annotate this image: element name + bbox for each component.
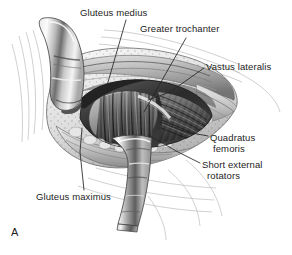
label-quadratus-femoris-line2: femoris	[213, 143, 245, 155]
label-gluteus-maximus: Gluteus maximus	[36, 191, 111, 203]
panel-letter: A	[11, 226, 18, 238]
label-vastus-lateralis: Vastus lateralis	[206, 61, 271, 73]
label-short-external-rotators-line1: Short external	[202, 159, 263, 171]
label-greater-trochanter: Greater trochanter	[140, 23, 219, 35]
illustration-canvas	[0, 0, 292, 255]
label-gluteus-medius: Gluteus medius	[80, 7, 147, 19]
label-short-external-rotators-line2: rotators	[207, 170, 240, 182]
label-quadratus-femoris-line1: Quadratus	[210, 132, 255, 144]
surgical-illustration-figure: Gluteus medius Greater trochanter Vastus…	[0, 0, 292, 255]
superior-retractor	[39, 18, 84, 114]
